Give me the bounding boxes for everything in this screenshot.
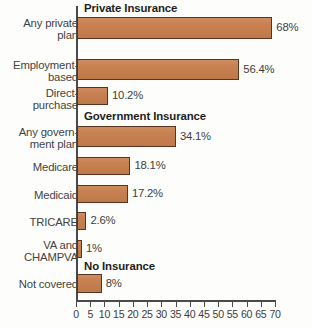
x-axis-tick-label: 50: [213, 309, 224, 320]
bar-value-label: 18.1%: [134, 160, 165, 171]
x-axis-tick: [90, 302, 91, 307]
x-axis-tick-label: 60: [241, 309, 252, 320]
bar-chart: Any private planEmployment- basedDirect-…: [0, 0, 312, 328]
bar: [77, 212, 86, 230]
bar-value-label: 56.4%: [243, 64, 274, 75]
x-axis-tick: [275, 302, 276, 307]
x-axis-tick-label: 5: [87, 309, 93, 320]
x-axis-tick: [147, 302, 148, 307]
category-label: Any private plan: [2, 18, 78, 41]
x-axis-tick: [161, 302, 162, 307]
x-axis-tick-label: 25: [141, 309, 152, 320]
x-axis-tick: [133, 302, 134, 307]
bar: [77, 126, 176, 147]
bar-value-label: 2.6%: [90, 215, 115, 226]
category-label: Direct- purchase: [2, 88, 78, 111]
x-axis: 0510152025303540455055606570: [76, 300, 312, 328]
x-axis-tick-label: 45: [198, 309, 209, 320]
x-axis-tick: [204, 302, 205, 307]
x-axis-tick-label: 35: [170, 309, 181, 320]
x-axis-tick-label: 65: [255, 309, 266, 320]
x-axis-tick: [119, 302, 120, 307]
bar: [77, 274, 102, 293]
section-header: Private Insurance: [84, 2, 177, 14]
bar-value-label: 1%: [86, 243, 102, 254]
bar-value-label: 34.1%: [180, 131, 211, 142]
x-axis-tick: [261, 302, 262, 307]
category-label: TRICARE: [2, 217, 78, 229]
x-axis-tick: [190, 302, 191, 307]
x-axis-tick-label: 30: [156, 309, 167, 320]
x-axis-tick-label: 70: [269, 309, 280, 320]
x-axis-tick-label: 20: [127, 309, 138, 320]
x-axis-tick-label: 40: [184, 309, 195, 320]
x-axis-tick: [176, 302, 177, 307]
bar: [77, 185, 128, 203]
section-header: No Insurance: [84, 260, 155, 272]
x-axis-tick: [247, 302, 248, 307]
x-axis-tick: [232, 302, 233, 307]
x-axis-tick-label: 0: [73, 309, 79, 320]
x-axis-tick: [218, 302, 219, 307]
x-axis-tick-label: 55: [227, 309, 238, 320]
category-label: Employment- based: [2, 60, 78, 83]
bar: [77, 87, 108, 105]
x-axis-tick-label: 10: [99, 309, 110, 320]
category-label: Medicaid: [2, 190, 78, 202]
category-label: Any govern- ment plan: [2, 127, 78, 150]
x-axis-tick: [104, 302, 105, 307]
plot-area: 68%56.4%10.2%34.1%18.1%17.2%2.6%1%8% Pri…: [76, 0, 312, 300]
bar: [77, 17, 272, 39]
bar-value-label: 17.2%: [132, 188, 163, 199]
category-label: Not covered: [2, 279, 78, 291]
section-header: Government Insurance: [84, 110, 206, 122]
bar-value-label: 8%: [106, 278, 122, 289]
bar: [77, 240, 82, 258]
x-axis-tick: [76, 302, 77, 307]
bar: [77, 59, 239, 80]
bar-value-label: 10.2%: [112, 90, 143, 101]
category-label: VA and CHAMPVA: [2, 240, 78, 263]
bar: [77, 157, 130, 175]
x-axis-tick-label: 15: [113, 309, 124, 320]
bar-value-label: 68%: [276, 22, 298, 33]
category-label: Medicare: [2, 162, 78, 174]
